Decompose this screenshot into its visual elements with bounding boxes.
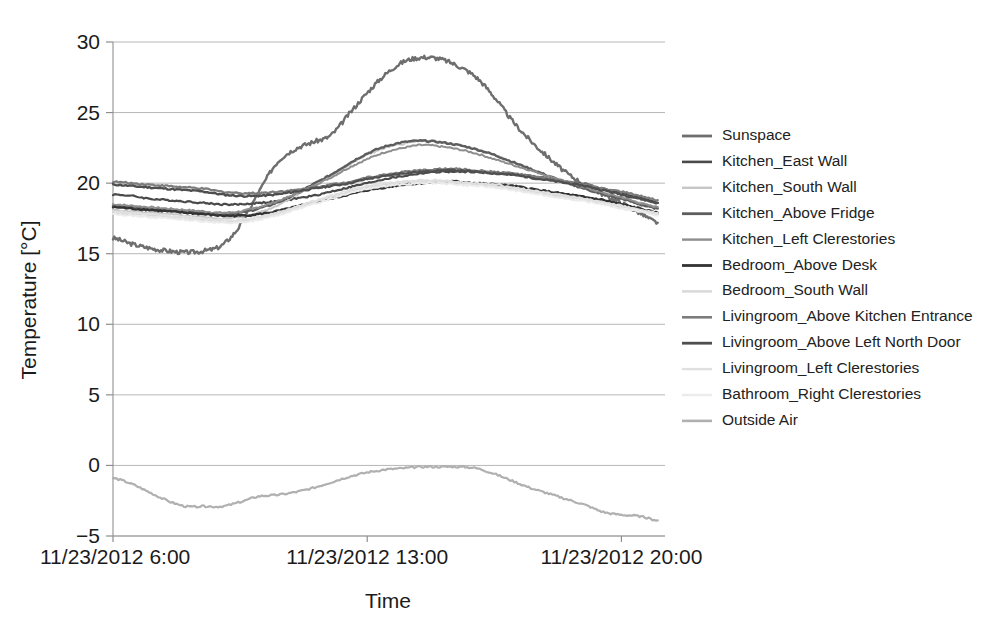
y-tick-label: 20: [77, 171, 100, 194]
series-line: [113, 56, 658, 254]
y-tick-label: 25: [77, 101, 100, 124]
legend-label: Sunspace: [722, 126, 791, 143]
y-tick-label: 5: [88, 383, 100, 406]
legend-label: Kitchen_Left Clerestories: [722, 230, 895, 247]
legend: SunspaceKitchen_East WallKitchen_South W…: [682, 126, 973, 428]
y-tick-label: 15: [77, 242, 100, 265]
y-tick-label: 30: [77, 30, 100, 53]
legend-label: Livingroom_Left Clerestories: [722, 359, 920, 376]
axes: [106, 42, 665, 542]
x-tick-label: 11/23/2012 20:00: [540, 545, 702, 568]
y-tick-label: 10: [77, 312, 100, 335]
y-tick-label: 0: [88, 453, 100, 476]
gridlines: [113, 42, 665, 536]
x-axis-tick-labels: 11/23/2012 6:0011/23/2012 13:0011/23/201…: [40, 545, 702, 568]
x-tick-label: 11/23/2012 13:00: [286, 545, 448, 568]
legend-label: Bedroom_South Wall: [722, 281, 868, 298]
temperature-time-chart: −5051015202530 11/23/2012 6:0011/23/2012…: [0, 0, 1006, 630]
y-tick-label: −5: [76, 524, 100, 547]
series-lines: [113, 56, 658, 521]
legend-label: Kitchen_South Wall: [722, 178, 857, 195]
y-axis-tick-labels: −5051015202530: [76, 30, 100, 547]
chart-canvas: −5051015202530 11/23/2012 6:0011/23/2012…: [0, 0, 1006, 630]
legend-label: Livingroom_Above Kitchen Entrance: [722, 307, 973, 324]
series-line: [113, 466, 658, 521]
legend-label: Kitchen_Above Fridge: [722, 204, 875, 221]
legend-label: Kitchen_East Wall: [722, 152, 847, 169]
legend-label: Bedroom_Above Desk: [722, 256, 877, 273]
y-axis-title: Temperature [°C]: [17, 221, 40, 380]
legend-label: Bathroom_Right Clerestories: [722, 385, 921, 402]
x-axis-title: Time: [365, 589, 411, 612]
legend-label: Livingroom_Above Left North Door: [722, 333, 961, 350]
legend-label: Outside Air: [722, 411, 798, 428]
x-tick-label: 11/23/2012 6:00: [40, 545, 190, 568]
